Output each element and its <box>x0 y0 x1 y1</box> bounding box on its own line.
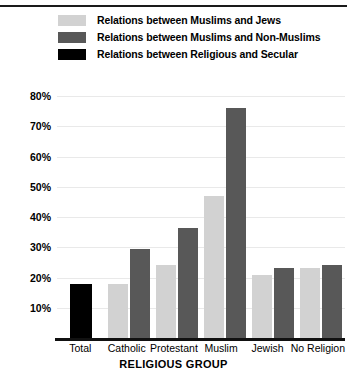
bar-group <box>201 81 249 338</box>
y-axis-tick-label: 50% <box>5 181 51 193</box>
x-axis-tick-label: Protestant <box>150 342 198 354</box>
y-axis-tick-label: 20% <box>5 272 51 284</box>
legend-swatch-icon <box>58 15 86 26</box>
x-axis-tick-label: No Religion <box>291 342 345 354</box>
y-axis-tick-label: 30% <box>5 241 51 253</box>
y-axis-tick-label: 10% <box>5 302 51 314</box>
x-axis-labels: TotalCatholicProtestantMuslimJewishNo Re… <box>57 342 345 354</box>
x-axis-tick-label: Jewish <box>244 342 290 354</box>
bar <box>300 268 320 338</box>
legend-swatch-icon <box>58 49 86 60</box>
bar <box>274 268 294 338</box>
x-axis-title: RELIGIOUS GROUP <box>0 358 347 370</box>
bar-group <box>153 81 201 338</box>
bar <box>226 108 246 338</box>
bar <box>108 284 128 338</box>
legend-item: Relations between Muslims and Non-Muslim… <box>58 32 320 43</box>
legend-item-label: Relations between Muslims and Non-Muslim… <box>97 32 320 43</box>
x-axis-tick-label: Muslim <box>198 342 244 354</box>
chart-legend: Relations between Muslims and Jews Relat… <box>58 15 320 60</box>
bar <box>130 249 150 338</box>
x-axis-line <box>55 338 345 341</box>
y-axis-tick-label: 80% <box>5 90 51 102</box>
bar-group <box>105 81 153 338</box>
x-axis-tick-label: Total <box>57 342 103 354</box>
bar <box>178 228 198 338</box>
bar-chart: Relations between Muslims and Jews Relat… <box>0 0 347 380</box>
bar <box>204 196 224 338</box>
legend-swatch-icon <box>58 32 86 43</box>
legend-item-label: Relations between Muslims and Jews <box>97 15 281 26</box>
plot-area: 80%70%60%50%40%30%20%10% <box>57 81 345 338</box>
bar <box>322 265 342 338</box>
bar <box>156 265 176 338</box>
legend-item: Relations between Muslims and Jews <box>58 15 320 26</box>
legend-item-label: Relations between Religious and Secular <box>97 49 298 60</box>
bar <box>70 284 92 338</box>
bar-group <box>249 81 297 338</box>
y-axis-tick-label: 60% <box>5 151 51 163</box>
bar-group <box>57 81 105 338</box>
header-divider <box>0 5 347 7</box>
bar-group <box>297 81 345 338</box>
bar-groups <box>57 81 345 338</box>
legend-item: Relations between Religious and Secular <box>58 49 320 60</box>
y-axis-tick-label: 70% <box>5 120 51 132</box>
bar <box>252 275 272 338</box>
y-axis-tick-label: 40% <box>5 211 51 223</box>
x-axis-tick-label: Catholic <box>103 342 149 354</box>
